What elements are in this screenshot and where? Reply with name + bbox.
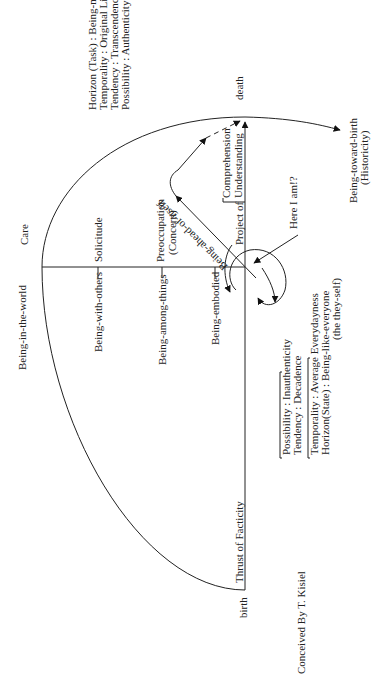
inauthentic-block-2: Temporality : Average Everydayness Horiz… [308,278,343,458]
here-i-am-arrow [254,235,298,263]
project-of-label: Project of [233,202,245,245]
being-with-others-label: Being-with-others [92,272,104,352]
svg-text:Tendency : Decadence: Tendency : Decadence [291,355,303,455]
care-half-ellipse [42,117,245,590]
historicity-label: (Historicity) [358,130,371,185]
inauthentic-block-1: Possibility : Inauthenticity Tendency : … [280,338,303,458]
comprehension-label: Comprehension [220,128,232,198]
care-label: Care [18,224,30,245]
swirl-loop [230,250,286,305]
swirl-loop-lower [262,268,275,302]
svg-text:(the they-self): (the they-self) [330,278,343,340]
understanding-label: Understanding [232,133,244,198]
being-among-things-label: Being-among-things [156,275,168,365]
death-label: death [233,76,245,100]
credit-label: Conceived By T. Kisiel [295,571,307,674]
being-embodied-label: Being-embodied [209,271,221,345]
being-toward-birth-arrow [245,117,340,130]
thrust-of-facticity-label: Thrust of Facticity [233,501,245,583]
being-ahead-turn [170,138,206,196]
care-diagram: Care Being-in-the-world Solicitude Being… [0,0,377,690]
authentic-block: Horizon (Task) : Being-myself Temporalit… [86,0,131,110]
birth-label: birth [237,597,249,618]
svg-text:Possibility : Authenticity: Possibility : Authenticity [119,0,131,110]
solicitude-label: Solicitude [92,217,104,262]
here-i-am-label: Here I am!? [287,176,299,229]
being-in-the-world-label: Being-in-the-world [16,285,28,370]
